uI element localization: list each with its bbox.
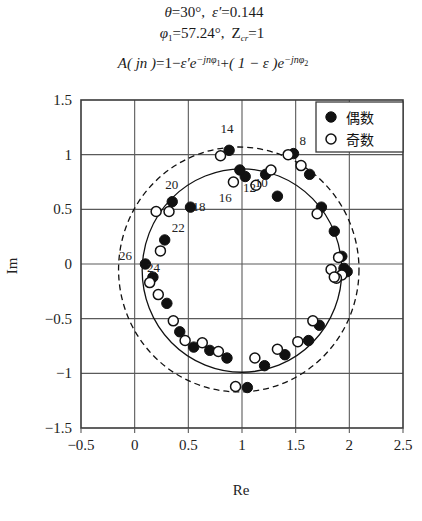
y-tick-label: −0.5 xyxy=(45,311,72,327)
harmonic-number-label: 20 xyxy=(165,177,178,192)
harmonic-number-label: 18 xyxy=(193,199,206,214)
data-point-odd xyxy=(231,381,241,391)
data-point-odd xyxy=(296,161,306,171)
x-tick-label: 1.5 xyxy=(286,437,305,453)
x-tick-label: 0 xyxy=(131,437,139,453)
data-point-odd xyxy=(312,209,322,219)
harmonic-number-label: 26 xyxy=(119,248,133,263)
data-point-odd xyxy=(153,290,163,300)
harmonic-number-label: 14 xyxy=(220,121,234,136)
harmonic-number-label: 8 xyxy=(299,133,306,148)
data-point-even xyxy=(167,196,177,206)
x-tick-label: 0.5 xyxy=(179,437,198,453)
data-point-odd xyxy=(216,151,226,161)
x-tick-label: 2.5 xyxy=(394,437,413,453)
open-circle-marker xyxy=(326,134,336,144)
chart-area: 8101214161820222426 −0.500.511.522.51.51… xyxy=(0,0,422,521)
x-tick-label: 2 xyxy=(346,437,354,453)
harmonic-number-label: 12 xyxy=(243,180,256,195)
data-point-odd xyxy=(250,353,260,363)
data-point-even xyxy=(304,169,314,179)
data-point-odd xyxy=(213,346,223,356)
x-tick-label: −0.5 xyxy=(67,437,94,453)
y-tick-label: −1 xyxy=(56,365,72,381)
data-point-odd xyxy=(180,336,190,346)
y-axis-label: Im xyxy=(4,257,20,274)
figure-root: θ=30°,ε′=0.144 φ1=57.24°,Zcr=1 A( jn )=1… xyxy=(0,0,422,521)
y-tick-label: 0.5 xyxy=(53,201,72,217)
data-point-odd xyxy=(228,177,238,187)
data-point-odd xyxy=(272,344,282,354)
data-point-odd xyxy=(308,316,318,326)
data-point-odd xyxy=(164,207,174,217)
data-point-odd xyxy=(151,207,161,217)
y-tick-label: 0 xyxy=(65,256,73,272)
data-point-even xyxy=(235,165,245,175)
legend-label: 偶数 xyxy=(346,110,374,126)
data-point-odd xyxy=(266,165,276,175)
x-tick-label: 1 xyxy=(238,437,246,453)
harmonic-number-label: 24 xyxy=(147,260,161,275)
y-tick-label: 1.5 xyxy=(53,92,72,108)
data-point-odd xyxy=(283,150,293,160)
data-point-even xyxy=(162,298,172,308)
data-point-odd xyxy=(197,338,207,348)
filled-circle-marker xyxy=(326,112,336,122)
data-point-odd xyxy=(329,272,339,282)
data-point-odd xyxy=(145,278,155,288)
y-tick-label: −1.5 xyxy=(45,420,72,436)
data-point-even xyxy=(272,191,282,201)
data-point-odd xyxy=(293,337,303,347)
legend[interactable]: 偶数奇数 xyxy=(316,102,403,152)
data-point-even xyxy=(259,360,269,370)
y-tick-label: 1 xyxy=(65,147,73,163)
legend-label: 奇数 xyxy=(346,132,374,148)
harmonic-number-label: 22 xyxy=(172,220,185,235)
harmonic-number-label: 16 xyxy=(219,190,233,205)
data-point-even xyxy=(160,235,170,245)
data-point-odd xyxy=(155,246,165,256)
nyquist-plot: 8101214161820222426 −0.500.511.522.51.51… xyxy=(0,0,422,521)
data-point-odd xyxy=(168,316,178,326)
data-point-even xyxy=(329,226,339,236)
x-axis-label: Re xyxy=(233,482,250,498)
data-point-even xyxy=(242,382,252,392)
data-point-odd xyxy=(334,252,344,262)
data-point-even xyxy=(303,335,313,345)
harmonic-number-label: 10 xyxy=(255,175,268,190)
